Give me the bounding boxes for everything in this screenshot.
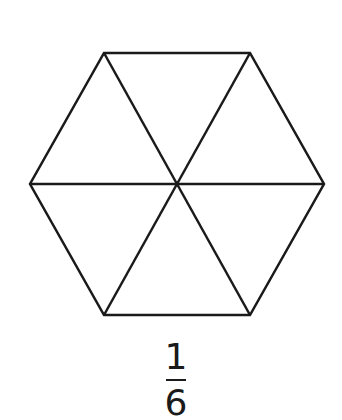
fraction-label: 1 6 xyxy=(156,338,196,420)
spoke-line-1 xyxy=(104,53,177,184)
spoke-line-4 xyxy=(177,184,250,315)
hexagon-spokes xyxy=(30,53,324,315)
fraction-numerator: 1 xyxy=(165,338,188,376)
spoke-line-5 xyxy=(104,184,177,315)
fraction-denominator: 6 xyxy=(165,384,188,420)
fraction-bar xyxy=(166,379,186,381)
spoke-line-2 xyxy=(177,53,250,184)
